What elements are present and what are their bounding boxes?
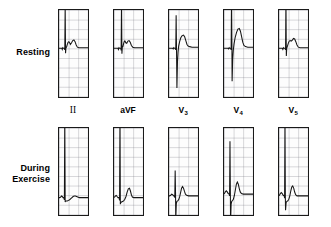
ecg-panel-resting-avf — [113, 9, 144, 98]
ecg-panel-resting-v5 — [278, 9, 309, 98]
ecg-trace-canvas — [59, 10, 88, 97]
ecg-trace-canvas — [279, 128, 308, 215]
ecg-trace — [59, 10, 88, 53]
ecg-trace — [169, 15, 198, 88]
ecg-trace — [224, 141, 253, 215]
lead-label-v4: V4 — [218, 105, 258, 115]
ecg-trace — [59, 128, 88, 202]
ecg-trace-canvas — [114, 10, 143, 97]
ecg-trace-canvas — [224, 10, 253, 97]
ecg-trace-canvas — [279, 10, 308, 97]
ecg-panel-exercise-v5 — [278, 127, 309, 216]
lead-label-ii-text: II — [70, 105, 76, 115]
row-label-resting: Resting — [0, 47, 50, 58]
ecg-panel-exercise-avf — [113, 127, 144, 216]
ecg-panel-resting-v3 — [168, 9, 199, 98]
ecg-trace — [279, 10, 308, 56]
ecg-trace — [279, 128, 308, 210]
ecg-trace-canvas — [224, 128, 253, 215]
lead-label-v3: V3 — [163, 105, 203, 115]
ecg-panel-exercise-v3 — [168, 127, 199, 216]
ecg-trace — [224, 10, 253, 81]
ecg-panel-exercise-v4 — [223, 127, 254, 216]
ecg-panel-resting-ii — [58, 9, 89, 98]
lead-label-ii: II — [53, 105, 93, 115]
row-label-during-exercise: During Exercise — [0, 163, 50, 184]
lead-label-avf: aVF — [108, 105, 148, 115]
ecg-figure: Resting During Exercise II aVF V3 V4 V5 — [0, 0, 331, 227]
ecg-trace-canvas — [169, 128, 198, 215]
lead-label-v3-subscript: 3 — [184, 110, 187, 116]
ecg-panel-exercise-ii — [58, 127, 89, 216]
lead-label-v5-subscript: 5 — [294, 110, 297, 116]
ecg-trace-canvas — [59, 128, 88, 215]
ecg-panel-resting-v4 — [223, 9, 254, 98]
ecg-trace-canvas — [169, 10, 198, 97]
ecg-trace — [114, 10, 143, 54]
ecg-trace — [114, 128, 143, 204]
ecg-trace-canvas — [114, 128, 143, 215]
lead-label-v4-subscript: 4 — [239, 110, 242, 116]
ecg-trace — [169, 171, 198, 215]
lead-label-v5: V5 — [273, 105, 313, 115]
lead-label-avf-text: aVF — [120, 105, 136, 115]
